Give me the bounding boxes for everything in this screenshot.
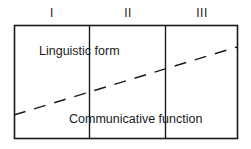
column-label-1: I	[50, 6, 54, 20]
diagram-canvas	[0, 0, 251, 149]
column-label-3: III	[196, 6, 208, 20]
communicative-function-label: Communicative function	[69, 112, 202, 126]
linguistic-form-label: Linguistic form	[39, 44, 120, 58]
column-label-2: II	[124, 6, 132, 20]
